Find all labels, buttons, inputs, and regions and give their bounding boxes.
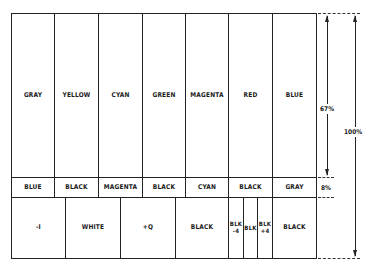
bottom-blk-plus4: BLK +4 <box>257 197 273 259</box>
bar-label: GRAY <box>285 184 303 191</box>
bar-green: GREEN <box>142 13 186 178</box>
bar-magenta: MAGENTA <box>185 13 229 178</box>
bar-label: GREEN <box>152 92 175 99</box>
bar-label: BLACK <box>191 224 214 231</box>
bar-label: CYAN <box>111 92 129 99</box>
bar-label: BLACK <box>239 184 262 191</box>
bar-yellow: YELLOW <box>54 13 99 178</box>
arrow-down-icon <box>325 169 329 176</box>
mid-black: BLACK <box>228 177 273 198</box>
dim-8-bottom-dash <box>318 197 334 198</box>
mid-magenta: MAGENTA <box>98 177 143 198</box>
bar-gray: GRAY <box>11 13 55 178</box>
bar-label: -I <box>36 224 41 231</box>
bar-label: BLUE <box>24 184 42 191</box>
bar-label: CYAN <box>198 184 216 191</box>
bottom-blk-minus4: BLK -4 <box>228 197 244 259</box>
bar-label: BLK -4 <box>230 221 242 235</box>
bar-label: GRAY <box>24 92 42 99</box>
bar-label: BLACK <box>283 224 306 231</box>
dim-8-label: 8% <box>321 183 331 193</box>
bottom-black-right: BLACK <box>272 197 317 259</box>
bar-label: YELLOW <box>62 92 90 99</box>
bottom-minus-i: -I <box>11 197 66 259</box>
mid-gray: GRAY <box>272 177 317 198</box>
bar-label: BLACK <box>153 184 176 191</box>
bar-label: BLACK <box>65 184 88 191</box>
bottom-plus-q: +Q <box>120 197 176 259</box>
dim-67-label: 67% <box>320 104 334 114</box>
bar-cyan: CYAN <box>98 13 143 178</box>
mid-black: BLACK <box>142 177 186 198</box>
mid-black: BLACK <box>54 177 99 198</box>
bar-label: BLK +4 <box>259 221 271 235</box>
bottom-white: WHITE <box>65 197 121 259</box>
bar-label: +Q <box>143 224 153 231</box>
dim-top-dash <box>318 13 360 14</box>
bar-label: MAGENTA <box>190 92 223 99</box>
bar-red: RED <box>228 13 273 178</box>
arrow-up-icon <box>353 15 357 22</box>
bar-label: WHITE <box>82 224 105 231</box>
mid-cyan: CYAN <box>185 177 229 198</box>
bar-label: RED <box>244 92 258 99</box>
arrow-down-icon <box>353 250 357 257</box>
dim-67-bottom-dash <box>318 177 334 178</box>
dim-67-line <box>327 16 328 175</box>
bar-label: MAGENTA <box>104 184 137 191</box>
bar-blue: BLUE <box>272 13 317 178</box>
arrow-up-icon <box>325 15 329 22</box>
dim-100-label: 100% <box>344 127 362 137</box>
bottom-black: BLACK <box>175 197 229 259</box>
bottom-blk: BLK <box>243 197 258 259</box>
mid-blue: BLUE <box>11 177 55 198</box>
bar-label: BLK <box>244 225 256 232</box>
dim-bottom-dash <box>318 258 360 259</box>
bar-label: BLUE <box>286 92 304 99</box>
